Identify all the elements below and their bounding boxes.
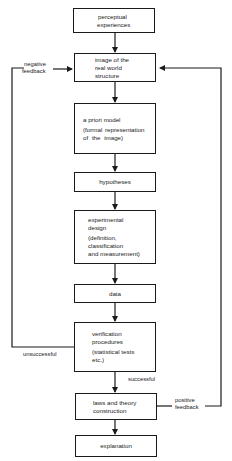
node-text: etc.) bbox=[92, 356, 155, 364]
label-line: negative bbox=[22, 61, 46, 68]
node-text: perceptual bbox=[84, 13, 127, 21]
node-text: a priori model bbox=[83, 116, 155, 124]
node-a-priori-model: a priori model (formal representation of… bbox=[74, 103, 156, 154]
node-text: experimental bbox=[88, 216, 155, 224]
node-text: procedures bbox=[92, 338, 155, 346]
node-hypotheses: hypotheses bbox=[74, 172, 156, 192]
negative-feedback-label: negative feedback bbox=[22, 61, 46, 75]
node-verification-procedures: verification procedures (statistical tes… bbox=[74, 322, 156, 372]
node-explanation: explanation bbox=[75, 435, 157, 457]
node-text: (formal representation bbox=[83, 126, 155, 134]
node-text: image of the bbox=[95, 56, 155, 64]
node-laws-and-theory: laws and theory construction bbox=[75, 393, 157, 420]
node-text: (statistical tests bbox=[92, 348, 155, 356]
node-text: real world bbox=[95, 64, 155, 72]
node-text: data bbox=[109, 290, 121, 298]
node-text: of the image) bbox=[83, 134, 155, 142]
node-text: explanation bbox=[100, 442, 132, 450]
node-text: hypotheses bbox=[99, 178, 131, 186]
label-line: feedback bbox=[22, 68, 46, 75]
node-perceptual-experiences: perceptual experiences bbox=[73, 8, 155, 33]
node-image-of-real-world: image of the real world structure bbox=[74, 53, 156, 82]
node-text: (definition, bbox=[88, 234, 155, 242]
label-line: positive bbox=[175, 397, 199, 404]
node-text: classification bbox=[88, 242, 155, 250]
label-line: feedback bbox=[175, 404, 199, 411]
positive-feedback-label: positive feedback bbox=[175, 397, 199, 411]
node-text: verification bbox=[92, 330, 155, 338]
node-text: laws and theory bbox=[93, 399, 156, 407]
node-text: and measurement) bbox=[88, 250, 155, 258]
node-text: design bbox=[88, 224, 155, 232]
node-text: construction bbox=[93, 407, 156, 415]
unsuccessful-label: unsuccessful bbox=[23, 351, 57, 358]
node-data: data bbox=[74, 284, 156, 303]
successful-label: successful bbox=[128, 376, 155, 383]
node-text: structure bbox=[95, 72, 155, 80]
node-experimental-design: experimental design (definition, classif… bbox=[74, 210, 156, 264]
node-text: experiences bbox=[84, 21, 130, 29]
